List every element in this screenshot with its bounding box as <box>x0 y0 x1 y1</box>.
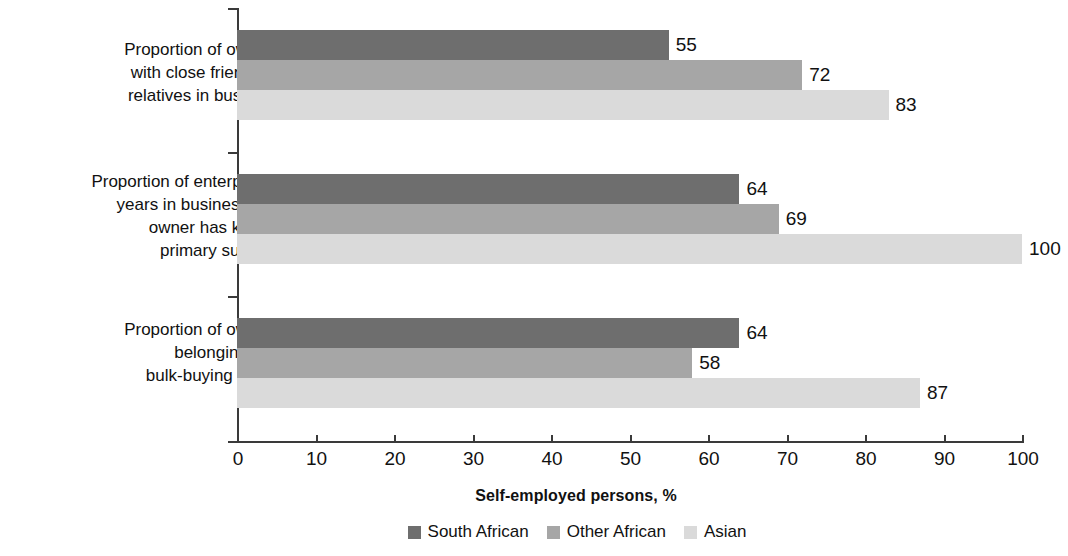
x-axis-tick <box>237 435 239 443</box>
bar[interactable] <box>237 234 1022 264</box>
x-axis-tick-label: 80 <box>855 448 876 470</box>
x-axis-tick <box>630 435 632 443</box>
x-axis-tick-label: 60 <box>698 448 719 470</box>
bar[interactable] <box>237 348 692 378</box>
legend-swatch-icon <box>547 526 560 539</box>
x-axis-tick-label: 40 <box>541 448 562 470</box>
x-axis-tick-label: 20 <box>384 448 405 470</box>
x-axis-tick <box>473 435 475 443</box>
bar[interactable] <box>237 204 779 234</box>
bar-value-label: 100 <box>1022 238 1061 260</box>
bar-row: 55 <box>237 30 1022 60</box>
legend-item-south-african[interactable]: South African <box>408 522 529 542</box>
chart-legend: South African Other African Asian <box>0 522 1068 542</box>
bar-value-label: 55 <box>669 34 697 56</box>
bar[interactable] <box>237 174 739 204</box>
x-axis-title: Self-employed persons, % <box>0 487 1068 505</box>
bar-row: 72 <box>237 60 1022 90</box>
bar[interactable] <box>237 378 920 408</box>
legend-item-asian[interactable]: Asian <box>684 522 747 542</box>
bar-group: 557283 <box>237 30 1022 120</box>
x-axis-title-text: Self-employed persons, % <box>475 487 677 504</box>
legend-swatch-icon <box>684 526 697 539</box>
legend-item-other-african[interactable]: Other African <box>547 522 666 542</box>
bar-value-label: 83 <box>889 94 917 116</box>
bar-value-label: 72 <box>802 64 830 86</box>
bar-value-label: 69 <box>779 208 807 230</box>
x-axis-tick-label: 50 <box>620 448 641 470</box>
x-axis-tick <box>865 435 867 443</box>
bar-row: 83 <box>237 90 1022 120</box>
bar-row: 100 <box>237 234 1022 264</box>
bar-value-label: 64 <box>739 322 767 344</box>
y-axis-tick <box>228 8 238 10</box>
y-axis-tick <box>228 152 238 154</box>
bar-row: 64 <box>237 174 1022 204</box>
x-axis-tick-label: 30 <box>463 448 484 470</box>
legend-label: Other African <box>567 522 666 542</box>
x-axis-tick <box>551 435 553 443</box>
bar-row: 69 <box>237 204 1022 234</box>
bar[interactable] <box>237 60 802 90</box>
x-axis-tick-label: 100 <box>1007 448 1039 470</box>
x-axis-tick <box>944 435 946 443</box>
x-axis-tick <box>316 435 318 443</box>
x-axis-tick-label: 90 <box>934 448 955 470</box>
bar-value-label: 58 <box>692 352 720 374</box>
bar-row: 87 <box>237 378 1022 408</box>
bar-value-label: 87 <box>920 382 948 404</box>
legend-label: South African <box>428 522 529 542</box>
legend-label: Asian <box>704 522 747 542</box>
y-axis-tick <box>228 296 238 298</box>
bar[interactable] <box>237 90 889 120</box>
bar-group: 645887 <box>237 318 1022 408</box>
bar[interactable] <box>237 30 669 60</box>
x-axis-tick <box>787 435 789 443</box>
x-axis-tick <box>1022 435 1024 443</box>
bar-chart: 0102030405060708090100 Proportion of own… <box>0 0 1068 556</box>
x-axis-tick <box>708 435 710 443</box>
bar-row: 64 <box>237 318 1022 348</box>
bar-value-label: 64 <box>739 178 767 200</box>
x-axis-tick <box>394 435 396 443</box>
x-axis-tick-label: 10 <box>306 448 327 470</box>
bar-group: 6469100 <box>237 174 1022 264</box>
legend-swatch-icon <box>408 526 421 539</box>
bar-row: 58 <box>237 348 1022 378</box>
x-axis-tick-label: 0 <box>233 448 244 470</box>
bar[interactable] <box>237 318 739 348</box>
x-axis-tick-label: 70 <box>777 448 798 470</box>
